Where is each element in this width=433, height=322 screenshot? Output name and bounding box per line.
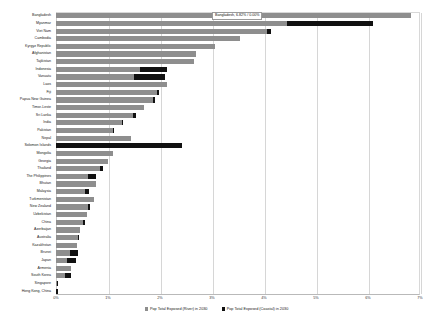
bar-segment-river[interactable] [56, 21, 287, 26]
bar-segment-river[interactable] [56, 227, 80, 232]
bar-row[interactable] [56, 189, 420, 194]
bar-row[interactable] [56, 67, 420, 72]
bar-segment-coastal[interactable] [88, 204, 90, 209]
bar-segment-river[interactable] [56, 273, 65, 278]
bar-segment-coastal[interactable] [57, 281, 58, 286]
stacked-bar-chart: BangladeshMyanmarViet NamCambodiaKyrgyz … [0, 0, 433, 322]
bar-row[interactable] [56, 266, 420, 271]
bar-segment-river[interactable] [56, 174, 88, 179]
bar-segment-river[interactable] [56, 59, 194, 64]
bar-row[interactable] [56, 90, 420, 95]
bar-segment-river[interactable] [56, 151, 113, 156]
bar-row[interactable] [56, 197, 420, 202]
bar-row[interactable] [56, 243, 420, 248]
bar-row[interactable] [56, 220, 420, 225]
bar-segment-river[interactable] [56, 181, 96, 186]
bar-row[interactable] [56, 151, 420, 156]
bar-segment-river[interactable] [56, 74, 134, 79]
bar-segment-coastal[interactable] [70, 250, 78, 255]
category-label: Kazakhstan [32, 242, 51, 247]
bar-segment-river[interactable] [56, 120, 122, 125]
bar-row[interactable] [56, 159, 420, 164]
bar-segment-river[interactable] [56, 220, 83, 225]
bar-segment-coastal[interactable] [267, 29, 271, 34]
bar-row[interactable] [56, 212, 420, 217]
bar-segment-river[interactable] [56, 36, 240, 41]
bar-row[interactable] [56, 59, 420, 64]
bar-row[interactable] [56, 36, 420, 41]
bar-row[interactable] [56, 82, 420, 87]
bar-segment-coastal[interactable] [85, 189, 89, 194]
category-axis-labels: BangladeshMyanmarViet NamCambodiaKyrgyz … [0, 12, 54, 295]
bar-segment-coastal[interactable] [88, 174, 95, 179]
bar-segment-river[interactable] [56, 44, 215, 49]
bar-row[interactable] [56, 227, 420, 232]
bar-row[interactable] [56, 44, 420, 49]
bar-segment-river[interactable] [56, 82, 167, 87]
bar-segment-river[interactable] [56, 204, 88, 209]
bar-segment-coastal[interactable] [67, 258, 75, 263]
bar-row[interactable] [56, 136, 420, 141]
bar-row[interactable] [56, 281, 420, 286]
bar-segment-coastal[interactable] [133, 113, 136, 118]
bar-segment-coastal[interactable] [83, 220, 85, 225]
bar-row[interactable] [56, 174, 420, 179]
bar-segment-coastal[interactable] [287, 21, 372, 26]
bar-row[interactable] [56, 113, 420, 118]
bar-row[interactable] [56, 181, 420, 186]
bar-row[interactable] [56, 250, 420, 255]
bar-segment-river[interactable] [56, 90, 157, 95]
bar-segment-river[interactable] [56, 250, 70, 255]
bar-segment-river[interactable] [56, 105, 144, 110]
legend-item-river[interactable]: Pop Total Exposed (River) in 2030 [145, 307, 208, 311]
bar-segment-river[interactable] [56, 166, 100, 171]
legend-item-coastal[interactable]: Pop Total Exposed (Coastal) in 2030 [222, 307, 289, 311]
bar-row[interactable] [56, 51, 420, 56]
bar-segment-river[interactable] [56, 212, 87, 217]
bar-segment-coastal[interactable] [78, 235, 79, 240]
bar-row[interactable] [56, 74, 420, 79]
x-axis-tick: 2% [157, 296, 163, 300]
bar-segment-river[interactable] [56, 113, 133, 118]
bar-segment-coastal[interactable] [122, 120, 123, 125]
bar-row[interactable] [56, 273, 420, 278]
bar-row[interactable] [56, 166, 420, 171]
bar-row[interactable] [56, 97, 420, 102]
bar-segment-coastal[interactable] [157, 90, 159, 95]
bar-segment-river[interactable] [56, 243, 77, 248]
bar-segment-river[interactable] [56, 29, 267, 34]
bar-segment-coastal[interactable] [56, 289, 58, 294]
bar-segment-river[interactable] [56, 258, 67, 263]
bar-segment-coastal[interactable] [65, 273, 70, 278]
bar-row[interactable] [56, 204, 420, 209]
bar-segment-river[interactable] [56, 136, 131, 141]
bar-segment-river[interactable] [56, 128, 113, 133]
bar-segment-river[interactable] [56, 197, 94, 202]
bar-segment-river[interactable] [56, 159, 108, 164]
bar-row[interactable] [56, 128, 420, 133]
x-axis-tick: 5% [313, 296, 319, 300]
bar-segment-river[interactable] [56, 235, 78, 240]
bar-row[interactable] [56, 258, 420, 263]
bar-segment-river[interactable] [56, 189, 85, 194]
bar-segment-coastal[interactable] [113, 128, 114, 133]
bar-segment-coastal[interactable] [56, 143, 182, 148]
bar-segment-coastal[interactable] [153, 97, 155, 102]
bar-segment-coastal[interactable] [140, 67, 167, 72]
bar-row[interactable] [56, 29, 420, 34]
bar-row[interactable] [56, 105, 420, 110]
bar-segment-river[interactable] [56, 51, 196, 56]
bar-segment-river[interactable] [56, 97, 153, 102]
bar-segment-river[interactable] [56, 67, 140, 72]
bar-row[interactable] [56, 235, 420, 240]
bar-row[interactable] [56, 21, 420, 26]
bar-segment-coastal[interactable] [134, 74, 165, 79]
category-label: Singapore [35, 281, 51, 286]
bar-rows [56, 12, 420, 295]
bar-row[interactable] [56, 143, 420, 148]
bar-segment-coastal[interactable] [100, 166, 103, 171]
bar-row[interactable] [56, 289, 420, 294]
bar-row[interactable] [56, 120, 420, 125]
category-label: Malaysia [37, 189, 51, 194]
bar-segment-river[interactable] [56, 266, 71, 271]
